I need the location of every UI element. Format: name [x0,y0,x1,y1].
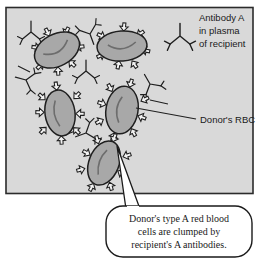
callout-line-1: Donor's type A red blood [129,213,229,224]
agglutination-figure: Antibody A in plasma of recipient Donor'… [0,0,263,264]
antibody-legend-line-2: in plasma [199,25,240,36]
antibody-legend-line-3: of recipient [199,38,246,49]
rbc-pointer-label: Donor's RBC [200,114,255,125]
callout-line-3: recipient's A antibodies. [131,239,226,250]
antibody-legend-label: Antibody A in plasma of recipient [199,12,246,49]
antibody-legend-line-1: Antibody A [199,12,245,23]
callout-line-2: cells are clumped by [138,226,220,237]
